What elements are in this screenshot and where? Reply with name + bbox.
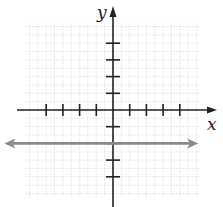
y-axis-arrow-icon: [110, 6, 117, 17]
coordinate-plane: x y: [0, 0, 223, 207]
y-axis-label: y: [96, 2, 107, 22]
x-axis-label: x: [207, 114, 217, 134]
series-line: [4, 138, 198, 148]
x-axis-arrow-icon: [207, 107, 217, 114]
